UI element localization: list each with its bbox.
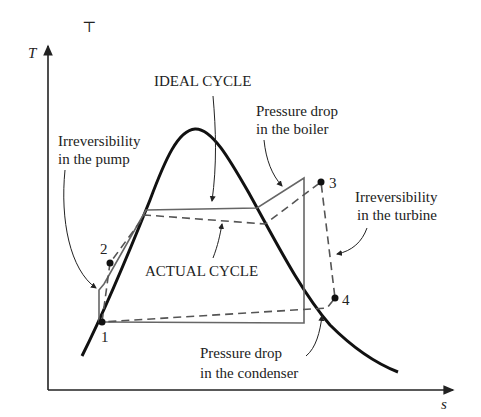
actual-cycle-arrow	[213, 224, 222, 258]
point-3-label: 3	[329, 175, 337, 191]
turbine-label-line1: Irreversibility	[355, 189, 438, 205]
pump-label-line2: in the pump	[58, 151, 130, 167]
boiler-label-line2: in the boiler	[256, 121, 328, 137]
point-4	[332, 295, 339, 302]
point-4-label: 4	[342, 292, 350, 308]
point-3	[318, 179, 325, 186]
turbine-arrow	[337, 228, 367, 254]
ideal-cycle-label: IDEAL CYCLE	[154, 73, 251, 89]
boiler-arrow	[264, 140, 282, 186]
boiler-label-line1: Pressure drop	[256, 103, 338, 119]
ideal-cycle-arrow	[212, 96, 216, 201]
condenser-label-line1: Pressure drop	[200, 345, 282, 361]
point-2-label: 2	[100, 241, 108, 257]
ts-diagram: ⊤ T s 1 2 3 4 IDEAL CYCLE ACTUAL CYCLE I…	[0, 0, 481, 417]
top-mark: ⊤	[82, 19, 96, 35]
actual-cycle-label: ACTUAL CYCLE	[145, 263, 258, 279]
t-axis-label: T	[28, 45, 38, 61]
point-1-label: 1	[101, 329, 109, 345]
point-1	[99, 319, 106, 326]
condenser-label-line2: in the condenser	[200, 365, 298, 381]
pump-label-line1: Irreversibility	[58, 133, 141, 149]
s-axis-label: s	[441, 396, 447, 412]
actual-cycle-path	[102, 182, 335, 322]
state-points	[99, 179, 339, 326]
pump-arrow	[64, 170, 96, 288]
condenser-arrow	[306, 316, 322, 356]
turbine-label-line2: in the turbine	[357, 207, 437, 223]
point-2	[107, 260, 114, 267]
